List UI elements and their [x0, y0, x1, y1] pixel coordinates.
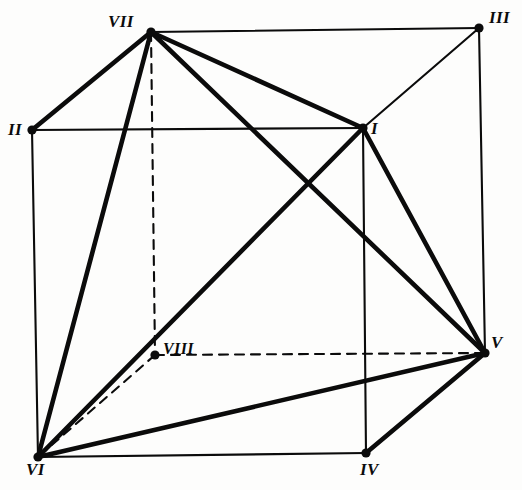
edge-I-V: [363, 128, 485, 353]
edge-VI-IV: [38, 453, 366, 457]
vertex-dot-I: [358, 123, 367, 132]
vertex-label-I: I: [371, 120, 378, 137]
vertex-dot-III: [474, 23, 483, 32]
edge-VII-VIII: [151, 32, 155, 355]
edge-VIII-V: [155, 353, 485, 355]
vertex-dot-VII: [146, 27, 155, 36]
vertex-label-II: II: [8, 121, 22, 138]
vertex-label-VI: VI: [26, 461, 45, 478]
vertex-dot-IV: [361, 448, 370, 457]
vertex-dot-II: [27, 125, 36, 134]
edge-III-V: [479, 28, 485, 353]
edge-I-VI: [38, 128, 363, 457]
edge-II-I: [32, 128, 363, 130]
cube-diagram-figure: IIIIIIIVVVIVIIVIII: [0, 0, 522, 490]
edge-VI-V: [38, 353, 485, 457]
edge-VII-I: [151, 32, 363, 128]
edge-VII-III: [151, 28, 479, 32]
edge-I-IV: [363, 128, 366, 453]
edge-VII-II: [32, 32, 151, 130]
vertex-dot-V: [480, 348, 489, 357]
vertex-dot-VIII: [150, 350, 159, 359]
vertex-label-V: V: [491, 334, 503, 351]
edge-II-VI: [32, 130, 38, 457]
edges-layer: [32, 28, 485, 457]
vertex-label-VIII: VIII: [163, 341, 194, 357]
vertex-label-IV: IV: [360, 461, 379, 478]
vertex-label-VII: VII: [108, 13, 134, 30]
edge-VII-VI: [38, 32, 151, 457]
edge-III-I: [363, 28, 479, 128]
edge-VII-V: [151, 32, 485, 353]
vertex-label-III: III: [489, 9, 510, 26]
cube-diagram-svg: [0, 0, 522, 490]
